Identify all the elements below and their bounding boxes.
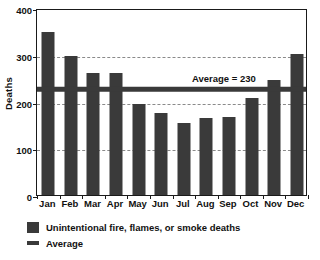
average-annotation-label: Average = 230	[192, 73, 256, 84]
x-tick-mark	[308, 195, 309, 199]
legend: Unintentional fire, flames, or smoke dea…	[27, 219, 317, 251]
x-axis-label-apr: Apr	[104, 198, 127, 209]
x-axis-label-feb: Feb	[59, 198, 82, 209]
y-tick-label-300: 300	[16, 51, 32, 62]
plot-area: 0100200300400 Average = 230	[36, 9, 307, 196]
x-axis-label-nov: Nov	[262, 198, 285, 209]
bar-chart: Deaths 0100200300400 Average = 230 JanFe…	[0, 0, 320, 260]
legend-line-swatch-icon	[27, 241, 39, 246]
x-axis-label-may: May	[126, 198, 149, 209]
x-axis-label-oct: Oct	[239, 198, 262, 209]
y-tick-label-200: 200	[16, 98, 32, 109]
y-tick-label-0: 0	[27, 192, 32, 203]
x-axis-label-mar: Mar	[81, 198, 104, 209]
x-axis-label-sep: Sep	[217, 198, 240, 209]
x-axis-label-jan: Jan	[36, 198, 59, 209]
legend-label-bars: Unintentional fire, flames, or smoke dea…	[46, 222, 240, 233]
x-axis-label-jun: Jun	[149, 198, 172, 209]
legend-item-average: Average	[27, 235, 317, 251]
y-axis-title: Deaths	[3, 70, 14, 118]
legend-item-bars: Unintentional fire, flames, or smoke dea…	[27, 219, 317, 235]
x-axis-labels: JanFebMarAprMayJunJulAugSepOctNovDec	[36, 198, 307, 212]
x-axis-label-aug: Aug	[194, 198, 217, 209]
y-tick-label-400: 400	[16, 5, 32, 16]
legend-square-swatch-icon	[27, 222, 39, 233]
x-axis-label-dec: Dec	[284, 198, 307, 209]
x-ticks-layer	[37, 10, 306, 195]
average-reference-line	[37, 87, 306, 92]
legend-label-average: Average	[46, 238, 83, 249]
x-axis-label-jul: Jul	[172, 198, 195, 209]
y-tick-label-100: 100	[16, 145, 32, 156]
